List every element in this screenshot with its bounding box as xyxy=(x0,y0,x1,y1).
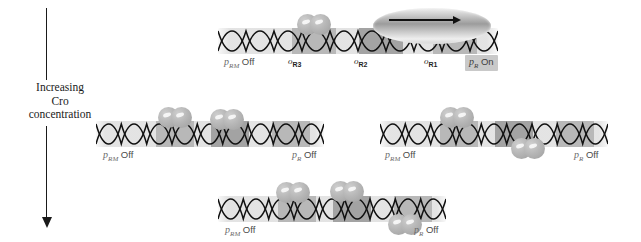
cro-lobe-right xyxy=(343,181,364,202)
promoter-pr-subscript: R xyxy=(419,230,423,238)
cro-dimer-bottom-or2 xyxy=(330,180,364,203)
promoter-pr-subscript: R xyxy=(474,62,478,70)
cro-lobe-right xyxy=(171,107,192,128)
operator-label-or1-top: oR1 xyxy=(424,56,437,68)
operator-label-or3-top: oR3 xyxy=(288,56,301,68)
cro-axis-line-lower xyxy=(46,126,47,219)
promoter-prm-state-top: Off xyxy=(242,56,255,67)
cro-dimer-top-or3 xyxy=(297,13,331,36)
promoter-pr-subscript: R xyxy=(579,155,583,163)
promoter-label-prm-mid-left: pRMOff xyxy=(103,149,133,163)
operator-or3-subscript: R3 xyxy=(293,61,302,68)
operator-or2-subscript: R2 xyxy=(359,61,368,68)
dna-double-helix-mid-right xyxy=(380,120,608,148)
cro-axis-caption: Increasing Cro concentration xyxy=(0,81,120,122)
cro-dimer-mid-left-or3 xyxy=(158,106,192,129)
cro-dimer-bottom-or3 xyxy=(276,181,310,204)
operator-label-or2-top: oR2 xyxy=(354,56,367,68)
promoter-label-pr-bottom: pROff xyxy=(414,224,438,238)
cro-dimer-mid-left-or2 xyxy=(210,108,244,131)
cro-axis-caption-line-1: Increasing xyxy=(0,81,120,95)
cro-lobe-right xyxy=(310,14,331,35)
cro-lobe-right xyxy=(524,138,545,159)
promoter-prm-subscript: RM xyxy=(108,155,118,163)
cro-lobe-right xyxy=(453,107,474,128)
transcription-direction-arrow-line xyxy=(389,19,455,21)
cro-lobe-right xyxy=(289,182,310,203)
cro-axis-caption-line-2: Cro xyxy=(0,95,120,109)
rna-polymerase-top xyxy=(373,8,491,44)
operator-or1-subscript: R1 xyxy=(429,61,438,68)
cro-axis-arrowhead-icon xyxy=(42,217,52,228)
promoter-pr-state-bottom: Off xyxy=(426,224,439,235)
transcription-direction-arrowhead-icon xyxy=(453,16,461,24)
cro-dimer-mid-right-or3 xyxy=(440,106,474,129)
promoter-prm-state-mid-right: Off xyxy=(403,149,416,160)
promoter-label-pr-top: pROn xyxy=(465,55,498,72)
cro-lobe-right xyxy=(223,109,244,130)
promoter-label-pr-mid-right: pROff xyxy=(574,149,598,163)
promoter-prm-state-mid-left: Off xyxy=(121,149,134,160)
cro-axis-line-upper xyxy=(46,8,47,80)
promoter-pr-state-mid-left: Off xyxy=(304,149,317,160)
lambda-cro-repression-diagram: Increasing Cro concentration xyxy=(0,0,641,242)
promoter-prm-subscript: RM xyxy=(229,62,239,70)
promoter-prm-subscript: RM xyxy=(230,230,240,238)
promoter-label-prm-top: pRMOff xyxy=(224,56,254,70)
promoter-label-pr-mid-left: pROff xyxy=(292,149,316,163)
promoter-prm-state-bottom: Off xyxy=(243,224,256,235)
promoter-label-prm-mid-right: pRMOff xyxy=(385,149,415,163)
promoter-pr-subscript: R xyxy=(297,155,301,163)
promoter-prm-subscript: RM xyxy=(390,155,400,163)
promoter-label-prm-bottom: pRMOff xyxy=(225,224,255,238)
cro-dimer-mid-right-or1 xyxy=(511,137,545,160)
promoter-pr-state-top: On xyxy=(481,56,494,67)
promoter-pr-state-mid-right: Off xyxy=(586,149,599,160)
